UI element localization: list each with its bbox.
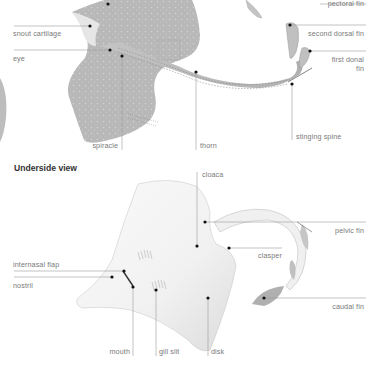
label-caudal-fin: caudal fin xyxy=(332,302,364,311)
label-gill-slit: gill slit xyxy=(159,347,179,356)
label-first-dorsal-fin-line2: fin xyxy=(356,64,364,73)
label-first-dorsal-fin-line1: first donal xyxy=(332,55,364,64)
label-pelvic-fin: pelvic fin xyxy=(335,226,364,235)
underside-ray xyxy=(77,180,312,350)
label-spiracle: spiracle xyxy=(92,141,118,150)
top-view-ray xyxy=(68,0,312,143)
label-snout-cartilage: snout cartilage xyxy=(13,29,61,38)
label-mouth: mouth xyxy=(100,347,130,356)
label-clasper: clasper xyxy=(258,251,282,260)
label-stinging-spine: stinging spine xyxy=(296,132,341,141)
label-disk: disk xyxy=(211,347,224,356)
label-nostril: nostril xyxy=(13,281,33,290)
adjacent-ray-edge xyxy=(0,78,6,142)
label-thorn: thorn xyxy=(200,141,217,150)
label-pectoral-fin: pectoral fin xyxy=(328,0,364,8)
label-second-dorsal-fin: second dorsal fin xyxy=(308,29,364,38)
label-internasal-flap: internasal flap xyxy=(13,260,59,269)
underside-view-heading: Underside view xyxy=(14,163,77,173)
label-cloaca: cloaca xyxy=(202,170,223,179)
stingray-diagram xyxy=(0,0,366,372)
label-eye: eye xyxy=(13,54,25,63)
